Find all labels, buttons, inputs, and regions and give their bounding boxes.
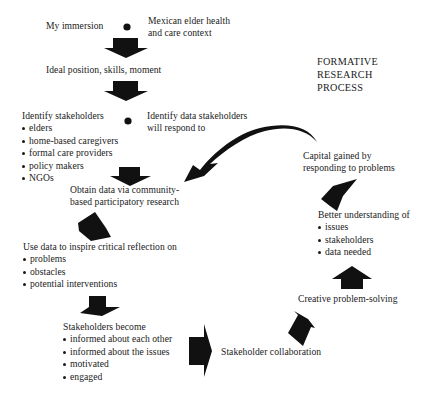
node-heading: Better understanding of <box>318 209 410 221</box>
node-stakeholder-collaboration: Stakeholder collaboration <box>221 346 321 358</box>
node-mexican-context: Mexican elder health and care context <box>148 15 230 40</box>
plus-marker-icon <box>123 23 130 30</box>
list-item: data needed <box>318 246 410 258</box>
list-item: informed about the issues <box>63 346 172 358</box>
node-line: Mexican elder health <box>148 15 230 27</box>
arrow-diagonal-up-icon <box>321 179 357 211</box>
plus-marker-icon <box>124 117 131 124</box>
become-list: informed about each other informed about… <box>63 333 172 383</box>
reflection-list: problems obstacles potential interventio… <box>23 253 177 290</box>
title-line: PROCESS <box>317 81 378 94</box>
node-heading: Stakeholders become <box>63 321 172 333</box>
node-critical-reflection: Use data to inspire critical reflection … <box>23 241 177 291</box>
diagram-title: FORMATIVE RESEARCH PROCESS <box>317 55 378 94</box>
list-item: NGOs <box>22 172 118 184</box>
node-identify-data: Identify data stakeholders will respond … <box>147 110 247 135</box>
node-identify-stakeholders: Identify stakeholders elders home-based … <box>22 110 118 184</box>
arrow-down-icon <box>104 81 148 101</box>
arrow-up-icon <box>332 266 372 289</box>
list-item: issues <box>318 221 410 233</box>
arrow-diagonal-up-icon <box>288 311 315 346</box>
node-heading: Use data to inspire critical reflection … <box>23 241 177 253</box>
arrow-down-icon <box>104 38 148 58</box>
node-heading: Identify stakeholders <box>22 110 118 122</box>
list-item: potential interventions <box>23 278 177 290</box>
node-line: based participatory research <box>70 196 179 208</box>
node-line: and care context <box>148 27 230 39</box>
node-ideal-position: Ideal position, skills, moment <box>46 64 161 76</box>
title-line: RESEARCH <box>317 68 378 81</box>
node-line: Identify data stakeholders <box>147 110 247 122</box>
arrow-right-icon <box>189 324 212 377</box>
list-item: stakeholders <box>318 234 410 246</box>
node-line: Capital gained by <box>303 150 395 162</box>
list-item: motivated <box>63 358 172 370</box>
list-item: engaged <box>63 371 172 383</box>
node-obtain-data: Obtain data via community- based partici… <box>70 184 179 209</box>
title-line: FORMATIVE <box>317 55 378 68</box>
node-better-understanding: Better understanding of issues stakehold… <box>318 209 410 259</box>
list-item: formal care providers <box>22 147 118 159</box>
list-item: informed about each other <box>63 333 172 345</box>
node-capital-gained: Capital gained by responding to problems <box>303 150 395 175</box>
node-line: responding to problems <box>303 162 395 174</box>
list-item: home-based caregivers <box>22 135 118 147</box>
list-item: problems <box>23 253 177 265</box>
node-line: will respond to <box>147 122 247 134</box>
node-creative-problem-solving: Creative problem-solving <box>298 293 398 305</box>
list-item: elders <box>22 122 118 134</box>
arrow-diagonal-down-icon <box>78 212 111 241</box>
node-my-immersion: My immersion <box>46 20 103 32</box>
stakeholder-list: elders home-based caregivers formal care… <box>22 122 118 184</box>
understanding-list: issues stakeholders data needed <box>318 221 410 258</box>
arrow-down-icon <box>80 296 120 316</box>
list-item: policy makers <box>22 160 118 172</box>
node-line: Obtain data via community- <box>70 184 179 196</box>
list-item: obstacles <box>23 266 177 278</box>
node-stakeholders-become: Stakeholders become informed about each … <box>63 321 172 383</box>
